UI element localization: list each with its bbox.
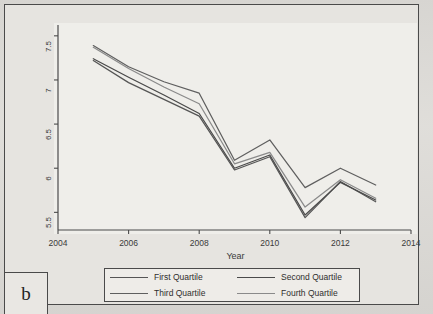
series-line-first-quartile xyxy=(93,61,375,218)
y-tick-7-5: 7.5 xyxy=(44,34,53,58)
legend-item-second-quartile[interactable]: Second Quartile xyxy=(232,269,359,285)
legend-swatch-fourth-quartile xyxy=(237,293,275,294)
series-line-second-quartile xyxy=(93,59,375,215)
legend-swatch-third-quartile xyxy=(110,293,148,294)
x-tick-2010: 2010 xyxy=(254,238,286,248)
y-tick-6: 6 xyxy=(44,167,53,191)
x-tick-2004: 2004 xyxy=(42,238,74,248)
chart-legend: First Quartile Second Quartile Third Qua… xyxy=(104,268,360,302)
plot-area xyxy=(54,23,417,234)
x-axis-title: Year xyxy=(54,251,417,261)
series-line-fourth-quartile xyxy=(93,47,375,207)
legend-label-second-quartile: Second Quartile xyxy=(281,272,342,282)
legend-item-first-quartile[interactable]: First Quartile xyxy=(105,269,232,285)
x-tick-2012: 2012 xyxy=(324,238,356,248)
chart-canvas xyxy=(54,23,417,234)
legend-item-fourth-quartile[interactable]: Fourth Quartile xyxy=(232,285,359,301)
series-line-third-quartile xyxy=(93,46,375,188)
legend-label-third-quartile: Third Quartile xyxy=(154,288,206,298)
legend-label-first-quartile: First Quartile xyxy=(154,272,203,282)
figure-border: CO2 emissions per capita (tons) Year 5.5… xyxy=(4,4,419,305)
x-tick-2006: 2006 xyxy=(113,238,145,248)
x-tick-2008: 2008 xyxy=(183,238,215,248)
panel-label: b xyxy=(4,272,48,314)
legend-label-fourth-quartile: Fourth Quartile xyxy=(281,288,338,298)
legend-item-third-quartile[interactable]: Third Quartile xyxy=(105,285,232,301)
y-tick-7: 7 xyxy=(44,78,53,102)
y-tick-6-5: 6.5 xyxy=(44,123,53,147)
legend-swatch-second-quartile xyxy=(237,277,275,278)
y-tick-5-5: 5.5 xyxy=(44,211,53,235)
figure-panel: CO2 emissions per capita (tons) Year 5.5… xyxy=(0,0,433,314)
legend-swatch-first-quartile xyxy=(110,277,148,278)
x-tick-2014: 2014 xyxy=(395,238,427,248)
